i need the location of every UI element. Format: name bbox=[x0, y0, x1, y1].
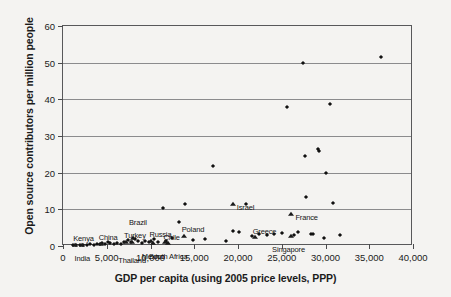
data-point bbox=[302, 154, 306, 158]
gridline bbox=[63, 136, 411, 137]
y-axis-tick-label: 40 bbox=[44, 94, 55, 105]
data-point bbox=[211, 164, 215, 168]
x-axis-tick bbox=[326, 244, 327, 249]
data-point bbox=[230, 202, 236, 206]
data-point bbox=[322, 235, 326, 239]
scatter-chart-figure: Open source contributors per million peo… bbox=[0, 0, 451, 297]
x-axis-title: GDP per capita (using 2005 price levels,… bbox=[0, 272, 451, 284]
y-axis-tick-label: 30 bbox=[44, 131, 55, 142]
data-point-label: Brazil bbox=[129, 218, 147, 227]
data-point bbox=[129, 240, 135, 244]
y-axis-tick bbox=[58, 26, 63, 27]
data-point-label: Kenya bbox=[73, 234, 94, 243]
data-point-label: Poland bbox=[182, 225, 204, 234]
data-point bbox=[98, 242, 104, 246]
gridline bbox=[63, 173, 411, 174]
y-axis-tick bbox=[58, 99, 63, 100]
y-axis-title: Open source contributors per million peo… bbox=[23, 1, 35, 251]
data-point-label: China bbox=[99, 233, 118, 242]
data-point bbox=[301, 61, 305, 65]
y-axis-tick bbox=[58, 173, 63, 174]
y-axis-tick-label: 10 bbox=[44, 204, 55, 215]
data-point bbox=[296, 230, 300, 234]
x-axis-tick bbox=[194, 244, 195, 249]
y-axis-tick-label: 20 bbox=[44, 167, 55, 178]
data-point-label: Greece bbox=[253, 227, 277, 236]
data-point-label: South Africa bbox=[149, 252, 188, 261]
data-point-label: Israel bbox=[237, 203, 254, 212]
data-point bbox=[285, 105, 289, 109]
plot-area: 0102030405060 05,00010,00015,00020,00025… bbox=[62, 25, 412, 245]
data-point bbox=[203, 237, 207, 241]
y-axis-tick-label: 50 bbox=[44, 57, 55, 68]
data-point bbox=[288, 234, 294, 238]
x-axis-tick-label: 35,000 bbox=[355, 252, 384, 263]
data-point bbox=[156, 240, 160, 244]
x-axis-tick-label: 30,000 bbox=[311, 252, 340, 263]
y-axis-tick-label: 60 bbox=[44, 21, 55, 32]
data-point bbox=[231, 228, 235, 232]
data-point bbox=[72, 243, 78, 247]
x-axis-tick-label: 0 bbox=[60, 252, 65, 263]
data-point bbox=[304, 195, 308, 199]
data-point bbox=[280, 231, 284, 235]
data-point bbox=[379, 55, 383, 59]
data-point bbox=[288, 212, 294, 216]
data-point-label: France bbox=[295, 213, 317, 222]
data-point bbox=[224, 239, 228, 243]
x-axis-tick-label: 5,000 bbox=[95, 252, 119, 263]
x-axis-tick bbox=[63, 244, 64, 249]
data-point-label: Turkey bbox=[124, 231, 146, 240]
data-point bbox=[176, 220, 180, 224]
data-point bbox=[183, 202, 187, 206]
data-point bbox=[123, 239, 129, 243]
y-axis-tick bbox=[58, 209, 63, 210]
data-point bbox=[165, 241, 171, 245]
data-point bbox=[317, 149, 321, 153]
x-axis-tick bbox=[107, 244, 108, 249]
x-axis-tick-label: 40,000 bbox=[398, 252, 427, 263]
x-axis-tick bbox=[369, 244, 370, 249]
data-point bbox=[150, 241, 156, 245]
data-point-label: India bbox=[74, 254, 90, 263]
y-axis-tick-label: 0 bbox=[50, 241, 55, 252]
y-axis-tick bbox=[58, 136, 63, 137]
data-point-label: Singapore bbox=[272, 245, 305, 254]
data-point bbox=[337, 233, 341, 237]
data-point bbox=[79, 243, 85, 247]
data-point bbox=[190, 238, 194, 242]
gridline bbox=[63, 63, 411, 64]
x-axis-tick-label: 20,000 bbox=[223, 252, 252, 263]
y-axis-tick bbox=[58, 63, 63, 64]
data-point-label: Chile bbox=[163, 233, 179, 242]
data-point bbox=[181, 234, 187, 238]
data-point bbox=[237, 230, 241, 234]
data-point bbox=[331, 201, 335, 205]
x-axis-tick bbox=[238, 244, 239, 249]
gridline bbox=[63, 99, 411, 100]
x-axis-tick bbox=[413, 244, 414, 249]
data-point bbox=[311, 232, 315, 236]
data-point bbox=[328, 102, 332, 106]
